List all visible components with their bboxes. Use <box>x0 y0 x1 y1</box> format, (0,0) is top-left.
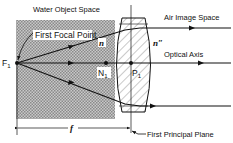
refractive-index-image-label: n″ <box>153 38 163 48</box>
principal-point-marker <box>129 61 133 65</box>
air-image-space-label: Air Image Space <box>164 13 219 22</box>
focal-point-label: F1 <box>2 58 11 69</box>
lens <box>117 18 151 112</box>
optics-diagram: Water Object Space First Focal Point n A… <box>0 0 233 143</box>
ray-arrow-icon <box>150 104 156 109</box>
ray-arrow-icon <box>189 26 195 31</box>
refractive-index-object-label: n <box>99 38 104 48</box>
nodal-point-marker <box>104 61 108 65</box>
water-object-space-label: Water Object Space <box>33 5 100 14</box>
optical-axis-label: Optical Axis <box>164 50 203 59</box>
focal-point-marker <box>15 61 19 65</box>
principal-plane-leader <box>132 131 146 134</box>
axis-arrow-icon <box>198 61 204 66</box>
first-principal-plane-label: First Principal Plane <box>147 130 214 139</box>
first-focal-point-label: First Focal Point <box>35 30 97 40</box>
